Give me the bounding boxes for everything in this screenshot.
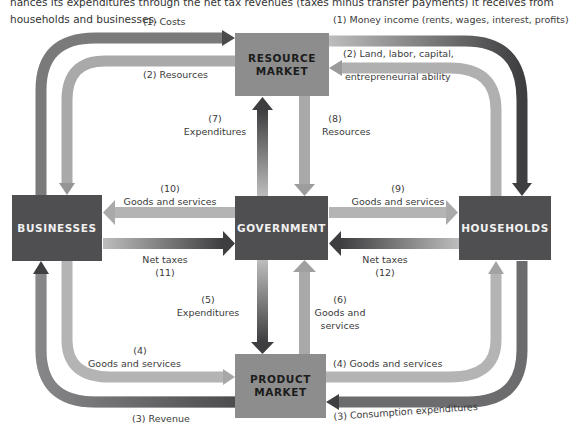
flow-5-label: Expenditures — [163, 306, 253, 319]
flow-4-left-label: Goods and services — [88, 357, 181, 370]
flow-6-label-2: services — [300, 319, 380, 332]
flow-9-number: (9) — [343, 182, 453, 195]
government-box: GOVERNMENT — [235, 196, 328, 260]
flow-5-number: (5) — [168, 293, 248, 306]
households-box: HOUSEHOLDS — [459, 196, 551, 260]
flow-8-number: (8) — [315, 112, 355, 125]
flow-6-label-1: Goods and — [300, 306, 380, 319]
flow-11-label: Net taxes — [125, 253, 205, 266]
flow-land-labor-label-1: (2) Land, labor, capital, — [343, 47, 454, 60]
flow-12-number: (12) — [345, 266, 425, 279]
flow-4-left-number: (4) — [120, 344, 160, 357]
businesses-box: BUSINESSES — [12, 195, 102, 261]
resource-market-box: RESOURCE MARKET — [235, 33, 329, 96]
government-label: GOVERNMENT — [237, 222, 326, 235]
flow-7-number: (7) — [180, 112, 250, 125]
flow-revenue-label: (3) Revenue — [132, 412, 190, 425]
flow-costs-label: (1) Costs — [143, 15, 186, 28]
households-label: HOUSEHOLDS — [461, 222, 549, 235]
flow-10-label: Goods and services — [115, 195, 225, 208]
flow-money-income-label: (1) Money income (rents, wages, interest… — [333, 13, 569, 26]
flow-11-number: (11) — [125, 266, 205, 279]
flow-8-label: Resources — [322, 125, 371, 138]
flow-land-labor-label-2: entrepreneurial ability — [345, 70, 451, 83]
flow-resources-label: (2) Resources — [143, 68, 208, 81]
businesses-label: BUSINESSES — [17, 222, 96, 235]
resource-market-label: RESOURCE MARKET — [247, 52, 317, 78]
flow-7-label: Expenditures — [175, 125, 255, 138]
flow-12-label: Net taxes — [345, 253, 425, 266]
flow-6-number: (6) — [300, 293, 380, 306]
product-market-label: PRODUCT MARKET — [246, 373, 316, 399]
product-market-box: PRODUCT MARKET — [235, 354, 326, 418]
flow-10-number: (10) — [120, 182, 220, 195]
flow-4-right-label: (4) Goods and services — [333, 357, 442, 370]
flow-9-label: Goods and services — [343, 195, 453, 208]
